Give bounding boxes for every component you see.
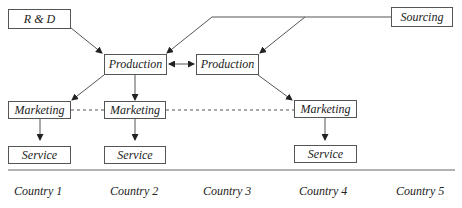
node-marketing-1: Marketing: [8, 101, 71, 119]
node-service-1: Service: [8, 146, 71, 164]
country-label-1: Country 1: [14, 184, 62, 199]
node-marketing-2: Marketing: [104, 101, 166, 119]
country-label-2: Country 2: [110, 184, 158, 199]
node-production-2: Production: [196, 54, 259, 75]
node-rnd: R & D: [8, 9, 71, 29]
edge-rnd-production1: [71, 28, 102, 53]
value-chain-diagram: R & D Sourcing Production Production Mar…: [0, 0, 462, 208]
node-service-3: Service: [294, 145, 357, 163]
country-label-3: Country 3: [203, 184, 251, 199]
node-production-1: Production: [104, 54, 167, 75]
node-sourcing: Sourcing: [391, 7, 453, 27]
edge-sourcing-production2: [260, 17, 305, 53]
country-label-4: Country 4: [299, 184, 347, 199]
country-label-5: Country 5: [396, 184, 444, 199]
edge-production1-marketing1: [72, 75, 104, 100]
node-service-2: Service: [104, 146, 166, 164]
node-marketing-3: Marketing: [294, 100, 357, 118]
edge-production2-marketing3: [258, 75, 292, 100]
edge-sourcing-production1: [167, 17, 391, 53]
